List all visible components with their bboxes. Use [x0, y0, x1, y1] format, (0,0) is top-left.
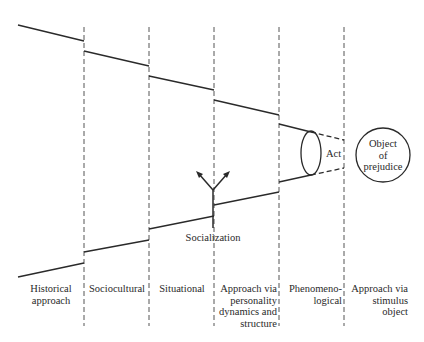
label-line: object — [346, 306, 408, 318]
upper-boundary — [18, 25, 311, 132]
label-line: approach — [20, 295, 82, 307]
label-line: Approach via — [346, 283, 408, 295]
label-line: personality — [214, 295, 277, 307]
label-line: Sociocultural — [86, 283, 148, 295]
label-sociocultural: Sociocultural — [86, 283, 148, 295]
label-line: logical — [281, 295, 342, 307]
label-personality: Approach via personality dynamics and st… — [214, 283, 277, 329]
socialization-label: Socialization — [180, 232, 246, 244]
act-ellipse — [301, 131, 321, 175]
label-line: stimulus — [346, 295, 408, 307]
label-line: structure — [214, 318, 277, 330]
label-stimulus: Approach via stimulus object — [346, 283, 408, 318]
label-line: Historical — [20, 283, 82, 295]
label-line: Object — [356, 138, 410, 150]
label-line: Situational — [151, 283, 213, 295]
label-historical: Historical approach — [20, 283, 82, 306]
object-of-prejudice-label: Object of prejudice — [356, 138, 410, 173]
socialization-arrow-icon — [196, 171, 230, 228]
label-line: prejudice — [356, 161, 410, 173]
label-phenomenological: Phenomeno- logical — [281, 283, 342, 306]
label-line: dynamics and — [214, 306, 277, 318]
prejudice-approaches-diagram: Historical approach Sociocultural Situat… — [0, 0, 424, 342]
act-label: Act — [326, 148, 341, 160]
label-line: Approach via — [214, 283, 277, 295]
label-line: Phenomeno- — [281, 283, 342, 295]
label-line: of — [356, 150, 410, 162]
label-situational: Situational — [151, 283, 213, 295]
lower-boundary — [18, 175, 311, 277]
